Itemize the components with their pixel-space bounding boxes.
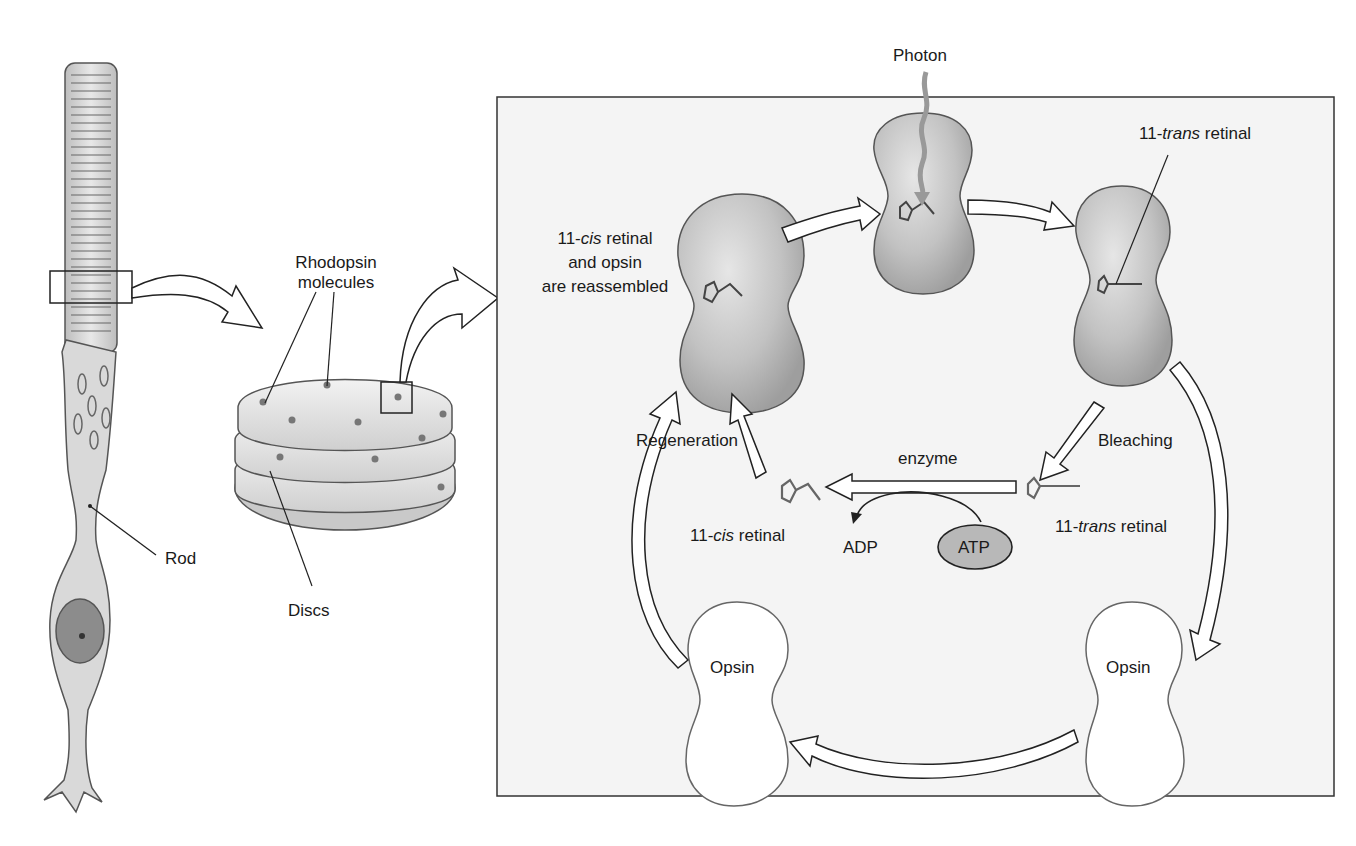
rod-label: Rod (165, 548, 196, 569)
rod-inner-segment (44, 340, 116, 812)
discs-to-cycle-arrow (400, 268, 498, 382)
atp-label: ATP (958, 537, 990, 558)
reassembled-label-line3: are reassembled (520, 276, 690, 297)
enzyme-label: enzyme (898, 448, 958, 469)
molecule-leader-2 (327, 292, 334, 386)
bleaching-label: Bleaching (1098, 430, 1173, 451)
rod-nucleus (56, 599, 104, 663)
reassembled-label-line1: 11-cis retinal (520, 228, 690, 249)
discs-label: Discs (288, 600, 330, 621)
opsin-left-shape (686, 602, 788, 806)
trans-retinal-top-label: 11-trans retinal (1139, 123, 1251, 144)
photon-label: Photon (893, 45, 947, 66)
trans-retinal-label: 11-trans retinal (1055, 516, 1167, 537)
cis-retinal-label: 11-cis retinal (690, 525, 785, 546)
reassembled-label-line2: and opsin (520, 252, 690, 273)
regeneration-label: Regeneration (636, 430, 738, 451)
rod-cell (44, 63, 156, 812)
rod-to-discs-arrow (132, 275, 262, 328)
adp-label: ADP (843, 537, 878, 558)
opsin-left-label: Opsin (710, 657, 754, 678)
rhodopsin-label-line1: Rhodopsin (266, 252, 406, 273)
opsin-right-label: Opsin (1106, 657, 1150, 678)
rhodopsin-label-line2: molecules (266, 272, 406, 293)
rod-label-leader (90, 506, 156, 555)
